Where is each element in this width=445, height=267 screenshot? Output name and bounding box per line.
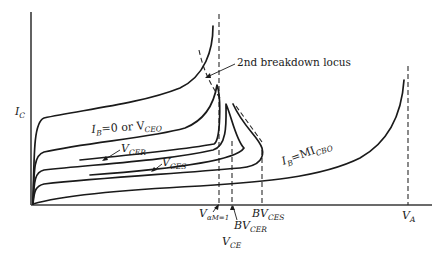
x-axis-label-sub: CE xyxy=(230,241,241,250)
reference-lines xyxy=(219,14,408,205)
label-2nd-breakdown-locus: 2nd breakdown locus xyxy=(237,57,351,68)
marker-v-alpha-m1: VαM=1 xyxy=(199,208,229,219)
marker-bv-cer: BVCER xyxy=(234,220,267,231)
second-breakdown-locus-lower xyxy=(236,106,262,142)
x-axis-label: VCE xyxy=(222,236,241,247)
x-axis-label-main: V xyxy=(222,235,230,248)
marker-v-a: VA xyxy=(402,210,415,221)
breakdown-characteristics-diagram xyxy=(0,0,445,267)
y-axis-label: IC xyxy=(15,106,25,117)
label-curve-cer: VCER xyxy=(121,143,146,154)
marker-bv-ces: BVCES xyxy=(252,208,284,219)
leader-2nd-breakdown xyxy=(207,64,235,77)
label-curve-ces: VCES xyxy=(162,157,186,168)
label-curve-ceo: IB=0 or VCEO xyxy=(91,119,162,135)
y-axis-label-sub: C xyxy=(19,111,25,120)
